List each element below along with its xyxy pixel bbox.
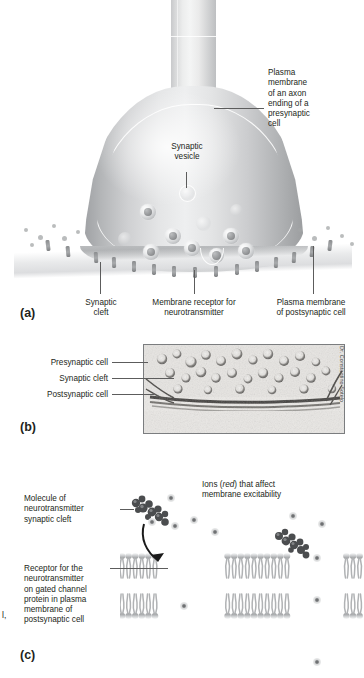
ion-dot-in-channel [180, 602, 188, 610]
membrane-receptor-shape [152, 264, 156, 275]
leader-line-synaptic-cleft-b [112, 378, 174, 379]
label-line: neurotransmitter [138, 308, 250, 318]
leader-line-receptor [110, 568, 168, 569]
neurotransmitter-dot [312, 236, 317, 241]
ion-dot-below-membrane [313, 658, 321, 666]
ion-dot [289, 512, 297, 520]
synaptic-vesicle-faint [196, 216, 211, 231]
label-line: of postsynaptic cell [258, 308, 364, 318]
label-line: vesicle [144, 152, 230, 162]
neurotransmitter-dot [340, 234, 344, 238]
label-line: Plasma membrane [258, 298, 364, 308]
ions-text-emphasis: red [222, 480, 234, 489]
label-line: Membrane receptor for [138, 298, 250, 308]
label-line: cell [268, 119, 360, 129]
ion-dot [171, 522, 179, 530]
membrane-receptor-shape [274, 257, 278, 268]
label-plasma-membrane-postsynaptic: Plasma membrane of postsynaptic cell [258, 298, 364, 319]
neurotransmitter-dot [298, 228, 302, 232]
membrane-receptor-shape [112, 257, 116, 268]
leader-line-synaptic-cleft [100, 262, 101, 294]
synaptic-vesicle-shape [140, 204, 156, 220]
label-synaptic-vesicle: Synaptic vesicle [144, 142, 230, 163]
leader-line-synaptic-vesicle [186, 172, 187, 188]
label-line: protein in plasma [24, 595, 134, 605]
label-synaptic-cleft: Synaptic cleft [62, 298, 140, 319]
neurotransmitter-dot [24, 228, 28, 232]
leader-line-nt-molecule [120, 509, 134, 510]
membrane-receptor-shape [235, 264, 239, 275]
synaptic-vesicle-faint [118, 232, 132, 246]
panel-letter-a: (a) [20, 306, 35, 320]
ion-dot [167, 494, 175, 502]
micrograph-content [144, 345, 344, 433]
label-line: membrane [268, 78, 360, 88]
photo-credit: Dr. Constantino Sotelo [339, 346, 345, 402]
neurotransmitter-dot [38, 235, 43, 240]
ion-dot [211, 528, 219, 536]
ion-dot-in-channel [313, 596, 321, 604]
panel-b: Dr. Constantino Sotelo Presynaptic cell … [0, 322, 364, 470]
membrane-receptor-shape [214, 266, 218, 277]
ion-dot [148, 518, 156, 526]
membrane-receptor-shape [66, 246, 71, 257]
leader-line-axon-membrane [214, 108, 264, 109]
label-receptor-for-neurotransmitter: Receptor for the neurotransmitter on gat… [24, 564, 134, 626]
label-line: on gated channel [24, 585, 134, 595]
label-plasma-membrane-axon: Plasma membrane of an axon ending of a p… [268, 68, 360, 130]
synaptic-vesicle-shape [238, 243, 254, 259]
neurotransmitter-dot [350, 242, 354, 246]
binding-arrow-icon [138, 522, 188, 570]
membrane-receptor-shape [94, 252, 99, 263]
panel-letter-c: (c) [20, 648, 35, 662]
label-line: Plasma [268, 68, 360, 78]
leader-line-membrane-receptor [194, 270, 195, 294]
label-synaptic-cleft-b: Synaptic cleft [20, 374, 108, 384]
membrane-receptor-shape [132, 261, 136, 272]
label-line: presynaptic [268, 109, 360, 119]
ion-dot-in-channel [313, 554, 321, 562]
synaptic-vesicle-shape [184, 240, 200, 256]
synaptic-vesicle-shape [223, 228, 239, 244]
label-line: Synaptic [144, 142, 230, 152]
label-line: Receptor for the [24, 564, 134, 574]
label-line: postsynaptic cell [24, 615, 134, 625]
neurotransmitter-dot [326, 226, 330, 230]
membrane-receptor-shape [172, 266, 176, 277]
membrane-receptor-shape [292, 252, 297, 263]
leader-line-postsynaptic-cell [112, 394, 154, 395]
label-line: Molecule of [24, 494, 132, 504]
neurotransmitter-dot [30, 243, 34, 247]
label-line-ions-1: Ions (red) that affect [202, 480, 352, 490]
label-line: Synaptic [62, 298, 140, 308]
synaptic-vesicle-shape [143, 244, 159, 260]
label-line: cleft [62, 308, 140, 318]
label-ions: Ions (red) that affect membrane excitabi… [202, 480, 352, 501]
label-line: neurotransmitter [24, 574, 134, 584]
label-line: neurotransmitter [24, 504, 132, 514]
ion-dot [190, 516, 198, 524]
synaptic-vesicle-shape [165, 228, 181, 244]
postsynaptic-membrane-illustration [14, 243, 352, 278]
synaptic-vesicle-faint [230, 204, 243, 217]
label-line: ending of a [268, 99, 360, 109]
membrane-receptor-shape [255, 261, 259, 272]
label-line-ions-2: membrane excitability [202, 490, 352, 500]
label-line: membrane of [24, 605, 134, 615]
panel-a: Plasma membrane of an axon ending of a p… [0, 0, 364, 322]
synaptic-vesicle-labeled [179, 185, 196, 202]
electron-micrograph [143, 344, 345, 434]
neurotransmitter-dot [76, 230, 80, 234]
label-postsynaptic-cell: Postsynaptic cell [20, 390, 108, 400]
label-line: of an axon [268, 89, 360, 99]
figure-synapse: Plasma membrane of an axon ending of a p… [0, 0, 364, 678]
ion-dot [318, 520, 326, 528]
label-presynaptic-cell: Presynaptic cell [20, 358, 108, 368]
ions-text-post: ) that affect [234, 480, 275, 489]
neurotransmitter-dot [62, 236, 67, 241]
panel-letter-b: (b) [20, 420, 36, 434]
neurotransmitter-molecule-bound [272, 528, 312, 562]
ions-text-pre: Ions ( [202, 480, 222, 489]
page-edge-text-fragment: l, [2, 610, 6, 620]
membrane-receptor-shape [45, 240, 50, 251]
